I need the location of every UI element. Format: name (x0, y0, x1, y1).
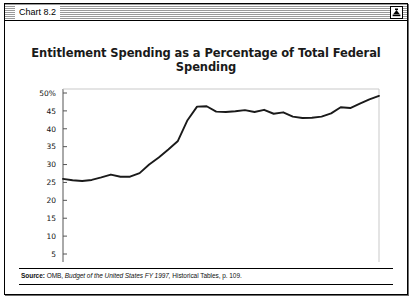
zoom-window-icon[interactable] (390, 6, 403, 19)
line-chart-svg: 50%45403530252015105 1965197019751980198… (5, 67, 409, 262)
y-axis-tick-label: 40 (46, 125, 56, 134)
y-axis-tick-label: 10 (46, 232, 56, 241)
source-note: Source: OMB, Budget of the United States… (21, 272, 242, 279)
chart-plot-area: 50%45403530252015105 1965197019751980198… (5, 67, 409, 262)
y-axis-tick-label: 5 (51, 250, 56, 259)
window-titlebar[interactable]: Chart 8.2 (5, 4, 407, 21)
source-work-title: Budget of the United States FY 1997, (65, 272, 171, 279)
y-axis-tick-labels: 50%45403530252015105 (39, 89, 56, 259)
y-axis-ticks (63, 93, 67, 254)
source-tail: Historical Tables, p. 109. (172, 272, 241, 279)
source-divider-top (19, 268, 393, 269)
y-axis-tick-label: 20 (46, 196, 56, 205)
data-series-line (63, 96, 379, 181)
y-axis-tick-label: 50% (39, 89, 56, 98)
window-body: Entitlement Spending as a Percentage of … (5, 21, 407, 294)
source-divider-bottom (19, 284, 393, 285)
y-axis-tick-label: 30 (46, 160, 56, 169)
chart-window: Chart 8.2 Entitlement Spending as a Perc… (4, 3, 408, 295)
y-axis-tick-label: 15 (46, 214, 56, 223)
source-publisher: OMB, (47, 272, 63, 279)
y-axis-tick-label: 25 (46, 178, 56, 187)
y-axis-tick-label: 35 (46, 142, 56, 151)
y-axis-tick-label: 45 (46, 107, 56, 116)
source-label: Source: (21, 272, 45, 279)
window-title: Chart 8.2 (15, 6, 60, 19)
